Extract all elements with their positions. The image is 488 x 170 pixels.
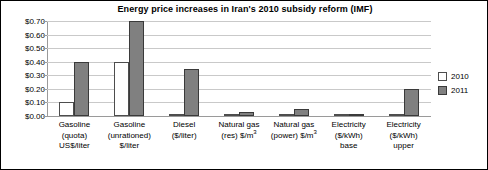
bar-2011[interactable]: [294, 109, 309, 116]
y-axis-tick-labels: $0.70$0.60$0.50$0.40$0.30$0.20$0.10$0.00: [1, 21, 45, 116]
bar-2010[interactable]: [389, 114, 404, 116]
x-axis-label: Electricity($/kWh)upper: [376, 120, 431, 152]
bar-2011[interactable]: [239, 112, 254, 116]
y-axis-tick-label: $0.70: [3, 17, 45, 26]
chart-title: Energy price increases in Iran's 2010 su…: [1, 4, 488, 14]
legend-label: 2011: [451, 86, 468, 95]
legend-label: 2010: [451, 72, 469, 81]
bar-series-layer: [47, 21, 431, 116]
bar-2010[interactable]: [224, 114, 239, 116]
legend-swatch-2010: [438, 72, 447, 81]
bar-2010[interactable]: [279, 114, 294, 116]
x-axis-label: Electricity($/kWh)base: [321, 120, 376, 152]
bar-group: [376, 21, 431, 116]
chart-container: Energy price increases in Iran's 2010 su…: [0, 0, 488, 170]
legend-item-2011[interactable]: 2011: [438, 86, 469, 95]
y-axis-tick-label: $0.60: [3, 30, 45, 39]
bar-2010[interactable]: [59, 102, 74, 116]
bar-2010[interactable]: [114, 62, 129, 116]
bar-group: [102, 21, 157, 116]
gridline: [47, 116, 431, 117]
legend-item-2010[interactable]: 2010: [438, 72, 469, 81]
bar-2010[interactable]: [169, 114, 184, 116]
x-axis-label: Diesel($/liter): [157, 120, 212, 152]
y-axis-tick-label: $0.10: [3, 98, 45, 107]
x-axis-category-labels: Gasoline(quota)US$/literGasoline(unratio…: [47, 120, 431, 152]
bar-2010[interactable]: [334, 114, 349, 116]
bar-group: [157, 21, 212, 116]
bar-group: [266, 21, 321, 116]
bar-group: [47, 21, 102, 116]
y-axis-tick-label: $0.30: [3, 71, 45, 80]
y-axis-tick-label: $0.50: [3, 44, 45, 53]
bar-2011[interactable]: [129, 21, 144, 116]
bar-2011[interactable]: [74, 62, 89, 116]
chart-legend: 20102011: [438, 72, 469, 95]
legend-swatch-2011: [438, 86, 447, 95]
x-axis-label: Natural gas(power) $/m3: [266, 120, 321, 152]
bar-2011[interactable]: [404, 89, 419, 116]
bar-group: [212, 21, 267, 116]
plot-area: [47, 21, 431, 116]
x-axis-label: Gasoline(unrationed)$/liter: [102, 120, 157, 152]
x-axis-label: Natural gas(res) $/m3: [212, 120, 267, 152]
bar-2011[interactable]: [184, 69, 199, 117]
y-axis-tick-label: $0.40: [3, 57, 45, 66]
y-axis-tick-label: $0.20: [3, 84, 45, 93]
bar-2011[interactable]: [349, 114, 364, 116]
bar-group: [321, 21, 376, 116]
x-axis-label: Gasoline(quota)US$/liter: [47, 120, 102, 152]
y-axis-tick-label: $0.00: [3, 112, 45, 121]
